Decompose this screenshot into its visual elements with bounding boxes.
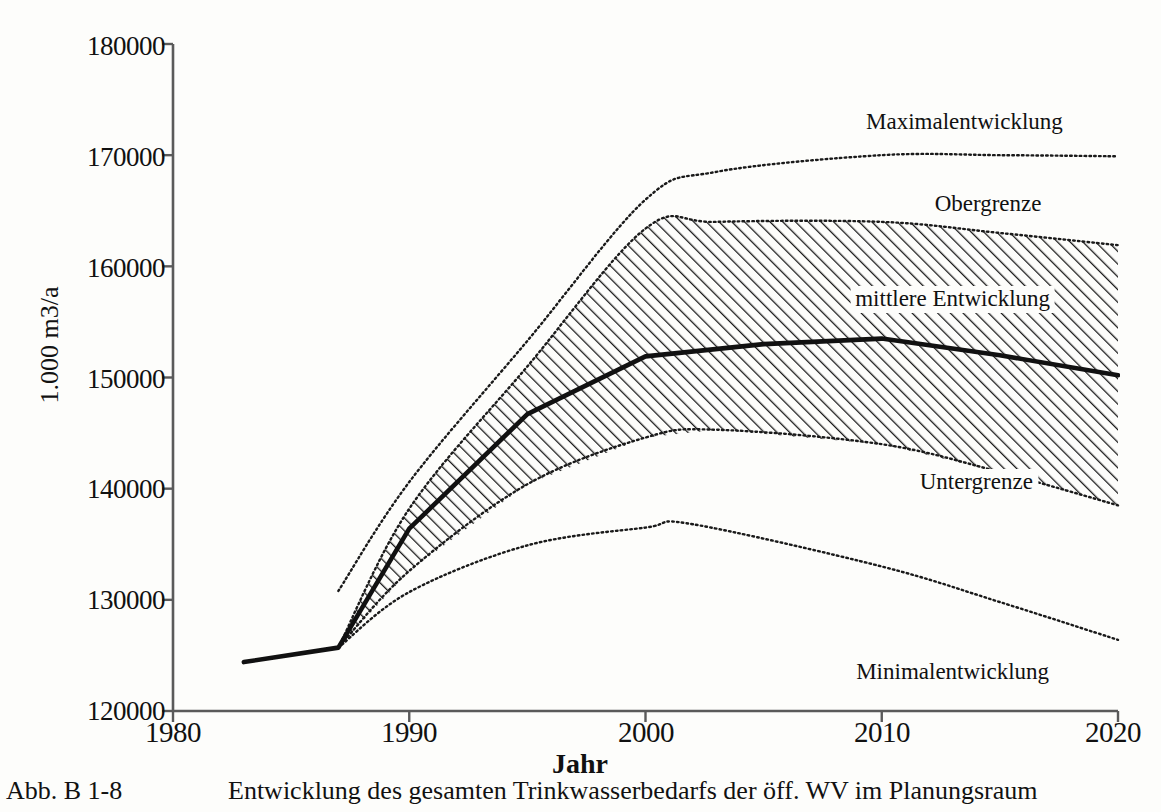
- xtick-label-2020: 2020: [1053, 716, 1161, 749]
- series-label-minimalentwicklung: Minimalentwicklung: [851, 659, 1054, 686]
- series-label-untergrenze: Untergrenze: [915, 469, 1038, 496]
- xtick-label-2000: 2000: [586, 716, 706, 749]
- plot-area: [244, 154, 1118, 662]
- xtick-label-1990: 1990: [349, 716, 469, 749]
- series-label-maximalentwicklung: Maximalentwicklung: [861, 109, 1068, 136]
- ytick-label-130000: 130000: [35, 585, 165, 616]
- ytick-label-180000: 180000: [35, 31, 165, 62]
- xtick-label-1980: 1980: [113, 716, 233, 749]
- series-label-obergrenze: Obergrenze: [930, 191, 1047, 218]
- minimalentwicklung-line: [338, 521, 1118, 647]
- figure-number: Abb. B 1-8: [6, 776, 122, 806]
- xtick-label-2010: 2010: [822, 716, 942, 749]
- ytick-label-170000: 170000: [35, 142, 165, 173]
- figure-container: 180000 170000 160000 150000 140000 13000…: [0, 0, 1161, 812]
- series-label-mittlere-entwicklung: mittlere Entwicklung: [850, 286, 1055, 313]
- figure-caption: Entwicklung des gesamten Trinkwasserbeda…: [228, 776, 1038, 806]
- y-axis-title: 1.000 m3/a: [35, 235, 65, 455]
- ytick-label-140000: 140000: [35, 474, 165, 505]
